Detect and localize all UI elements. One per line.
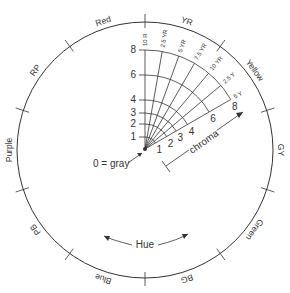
origin-label: 0 = gray xyxy=(93,158,129,169)
chroma-arc xyxy=(139,113,176,131)
fan-hue-label: 2.5 YR xyxy=(160,28,169,48)
hue-tick xyxy=(261,188,274,192)
hue-label: Hue xyxy=(136,239,155,250)
hue-label-red: Red xyxy=(94,14,112,28)
chroma-value-label: 2 xyxy=(130,118,136,129)
fan-hue-label: 5 YR xyxy=(177,38,187,53)
chroma-value-label: 1 xyxy=(157,144,163,155)
chroma-value-label: 6 xyxy=(130,69,136,80)
hue-label-blue: Blue xyxy=(93,272,113,287)
hue-tick xyxy=(16,108,29,112)
arrowhead-icon xyxy=(236,112,243,118)
chroma-value-label: 4 xyxy=(189,126,195,137)
hue-label-green: Green xyxy=(244,217,266,242)
fan-hue-label: 10 YR xyxy=(209,55,225,72)
chroma-arrow-tail xyxy=(162,161,170,172)
hue-label-yr: YR xyxy=(180,14,194,27)
hue-label-bg: BG xyxy=(180,272,195,285)
chroma-arc xyxy=(139,100,187,125)
hue-ray xyxy=(145,100,231,150)
hue-label-purple: Purple xyxy=(4,137,14,162)
chroma-value-label: 6 xyxy=(210,113,216,124)
annotations: 0 = graychromaHue xyxy=(93,112,243,250)
fan-hue-label: 7.5 YR xyxy=(194,42,209,61)
fan-hue-label: 2.5 Y xyxy=(222,71,237,85)
chroma-fan: 10 R2.5 YR5 YR7.5 YR10 YR2.5 Y5 Y1234681… xyxy=(130,28,243,155)
munsell-diagram: RedYRYellowGYGreenBGBluePBPurpleRP 10 R2… xyxy=(0,0,290,293)
chroma-value-label: 2 xyxy=(168,138,174,149)
chroma-value-label: 1 xyxy=(130,131,136,142)
chroma-value-label: 3 xyxy=(130,107,136,118)
hue-label-yellow: Yellow xyxy=(244,57,267,83)
fan-hue-label: 10 R xyxy=(142,33,148,46)
chroma-value-label: 8 xyxy=(232,101,238,112)
fan-hue-label: 5 Y xyxy=(232,90,243,100)
gray-origin xyxy=(143,147,147,151)
hue-label-gy: GY xyxy=(276,144,286,157)
hue-tick xyxy=(261,108,274,112)
chroma-value-label: 3 xyxy=(177,132,183,143)
chroma-arc xyxy=(139,75,209,112)
chroma-value-label: 4 xyxy=(130,94,136,105)
chroma-value-label: 8 xyxy=(130,44,136,55)
hue-tick xyxy=(16,188,29,192)
